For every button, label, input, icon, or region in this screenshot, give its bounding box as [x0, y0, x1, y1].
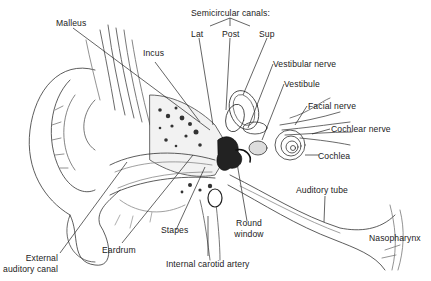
label-nasopharynx: Nasopharynx	[369, 233, 421, 243]
leader-stapes	[176, 167, 205, 230]
leader-post	[226, 38, 230, 110]
label-external-auditory-canal-1: External	[0, 253, 58, 263]
label-post: Post	[222, 29, 240, 39]
ear-anatomy-diagram: Semicircular canals: Lat Post Sup Malleu…	[0, 0, 431, 281]
label-semicircular-canals: Semicircular canals:	[191, 8, 270, 18]
label-round-window-2: window	[230, 229, 268, 239]
leader-auditory-tube	[324, 196, 325, 222]
label-vestibule: Vestibule	[284, 79, 320, 89]
label-external-auditory-canal-2: auditory canal	[0, 264, 58, 274]
semicircular-canal-lat	[243, 122, 267, 134]
leader-lat	[199, 38, 213, 125]
leader-vestibule	[262, 84, 284, 140]
leader-sup	[243, 38, 267, 95]
label-auditory-tube: Auditory tube	[296, 185, 348, 195]
pinna-outline	[29, 68, 120, 265]
vestibule	[249, 141, 267, 155]
label-lat: Lat	[191, 29, 203, 39]
leader-external-canal	[60, 162, 127, 253]
label-facial-nerve: Facial nerve	[308, 101, 356, 111]
label-vestibular-nerve: Vestibular nerve	[273, 59, 336, 69]
label-eardrum: Eardrum	[102, 245, 136, 255]
label-cochlear-nerve: Cochlear nerve	[331, 124, 391, 134]
label-round-window-1: Round	[232, 218, 266, 228]
label-malleus: Malleus	[56, 18, 86, 28]
leader-round-window	[237, 163, 247, 221]
ear-illustration	[0, 0, 431, 281]
label-internal-carotid-artery: Internal carotid artery	[166, 259, 250, 269]
leader-malleus	[73, 28, 210, 130]
label-sup: Sup	[259, 29, 275, 39]
label-stapes: Stapes	[161, 225, 188, 235]
label-incus: Incus	[143, 48, 164, 58]
round-window	[208, 189, 222, 207]
label-cochlea: Cochlea	[318, 151, 350, 161]
ossicles	[217, 137, 242, 171]
